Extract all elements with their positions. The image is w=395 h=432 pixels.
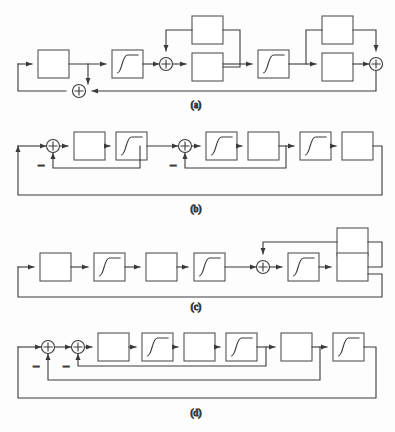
wire-a-upper2-to-sum3 bbox=[353, 30, 376, 51]
block-b-sigmoid-3 bbox=[300, 132, 331, 160]
block-c-upper bbox=[337, 228, 368, 256]
caption-b: (b) bbox=[190, 204, 201, 215]
panel-c: (c) bbox=[18, 228, 382, 313]
block-a-lower-1 bbox=[192, 53, 223, 81]
block-c-sigmoid-1 bbox=[94, 253, 125, 281]
block-diagram-figure: (a) bbox=[0, 0, 395, 432]
wire-a-local-fb-1 bbox=[223, 30, 240, 67]
block-d-sigmoid-3 bbox=[333, 333, 364, 361]
block-c-sigmoid-2 bbox=[194, 253, 225, 281]
block-a-sigmoid-2 bbox=[258, 50, 289, 78]
block-a-lower-2 bbox=[322, 53, 353, 81]
sum-d-2 bbox=[72, 341, 85, 354]
block-d-2 bbox=[184, 333, 215, 361]
block-b-sigmoid-1 bbox=[116, 132, 147, 160]
sum-b-2 bbox=[179, 140, 192, 153]
block-d-sigmoid-2 bbox=[226, 333, 257, 361]
sum-d-1 bbox=[42, 341, 55, 354]
block-c-1 bbox=[40, 253, 71, 281]
block-b-2 bbox=[248, 132, 279, 160]
panel-b: − − (b) bbox=[18, 132, 382, 215]
minus-b-1: − bbox=[37, 158, 44, 173]
block-c-lower bbox=[337, 253, 368, 281]
block-d-sigmoid-1 bbox=[142, 333, 173, 361]
block-b-sigmoid-2 bbox=[206, 132, 237, 160]
block-a-1 bbox=[38, 50, 69, 78]
wire-c-upper-to-sum bbox=[263, 242, 337, 254]
sum-a-1 bbox=[73, 85, 86, 98]
block-b-1 bbox=[74, 132, 105, 160]
caption-a: (a) bbox=[191, 100, 202, 111]
wire-a-upper1-to-sum2 bbox=[166, 30, 192, 51]
block-d-1 bbox=[98, 333, 129, 361]
sum-c-1 bbox=[257, 261, 270, 274]
sum-a-2 bbox=[160, 58, 173, 71]
block-a-sigmoid-1 bbox=[112, 50, 143, 78]
block-b-3 bbox=[342, 132, 373, 160]
wire-a-split-up-2 bbox=[306, 30, 322, 64]
caption-d: (d) bbox=[190, 408, 201, 419]
panel-d: − − (d) bbox=[18, 333, 376, 419]
minus-d-1: − bbox=[32, 359, 39, 374]
block-c-sigmoid-3 bbox=[288, 253, 319, 281]
diagram-canvas: (a) bbox=[0, 0, 395, 432]
minus-d-2: − bbox=[62, 359, 69, 374]
wire-c-local-fb bbox=[368, 242, 382, 267]
block-a-upper-1 bbox=[192, 16, 223, 44]
panel-a: (a) bbox=[18, 16, 383, 111]
block-c-2 bbox=[146, 253, 177, 281]
sum-b-1 bbox=[47, 140, 60, 153]
sum-a-3 bbox=[370, 58, 383, 71]
minus-b-2: − bbox=[169, 158, 176, 173]
caption-c: (c) bbox=[191, 302, 202, 313]
block-d-3 bbox=[281, 333, 312, 361]
block-a-upper-2 bbox=[322, 16, 353, 44]
